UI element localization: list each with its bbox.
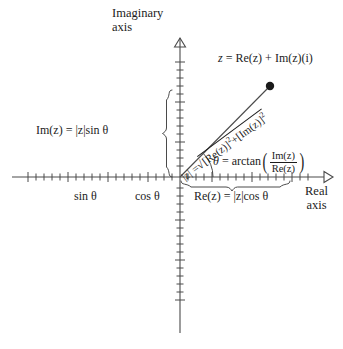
imaginary-axis-label: Imaginary axis <box>112 6 163 35</box>
point-equation-re: Re(z) <box>235 51 262 65</box>
point-equation-im: Im(z)(i) <box>275 51 313 65</box>
real-axis-label-line2: axis <box>305 198 328 212</box>
imaginary-axis-group <box>175 38 186 333</box>
imaginary-component-text: Im(z) = |z|sin θ <box>36 123 108 137</box>
real-axis-arrowhead <box>324 172 333 183</box>
point-equation-label: z = Re(z) + Im(z)(i) <box>218 52 313 66</box>
theta-open-paren: ( <box>262 151 267 173</box>
real-axis-label-line1: Real <box>305 184 328 198</box>
imaginary-axis-label-line1: Imaginary <box>112 6 163 20</box>
cos-theta-text: cos θ <box>135 189 160 203</box>
real-component-label: Re(z) = |z|cos θ <box>194 190 268 204</box>
imaginary-component-brace <box>163 90 173 177</box>
sin-theta-label: sin θ <box>74 190 97 204</box>
real-component-text: Re(z) = |z|cos θ <box>194 189 268 203</box>
theta-symbol: θ <box>213 154 219 168</box>
cos-theta-label: cos θ <box>135 190 160 204</box>
point-equation-lhs: z <box>218 51 223 65</box>
theta-equation-label: θ = arctan(Im(z)Re(z)) <box>213 150 306 175</box>
real-axis-label: Real axis <box>305 184 328 213</box>
theta-function-name: arctan <box>232 154 261 168</box>
theta-denominator: Re(z) <box>270 162 297 175</box>
point-equation-eq: = <box>226 51 233 65</box>
theta-numerator: Im(z) <box>270 150 297 162</box>
imaginary-axis-label-line2: axis <box>112 20 163 34</box>
point-z-marker <box>266 82 274 90</box>
imaginary-component-label: Im(z) = |z|sin θ <box>36 124 108 138</box>
sin-theta-text: sin θ <box>74 189 97 203</box>
theta-close-paren: ) <box>299 151 304 173</box>
theta-eq: = <box>222 154 229 168</box>
point-equation-plus: + <box>265 51 272 65</box>
complex-plane-figure: Imaginary axis Real axis z = Re(z) + Im(… <box>0 0 343 349</box>
theta-fraction: Im(z)Re(z) <box>270 150 297 175</box>
